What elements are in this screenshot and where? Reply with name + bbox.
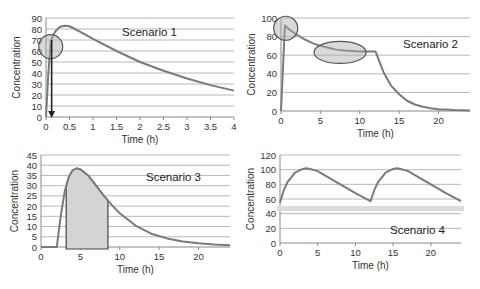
x-tick-label: 0 bbox=[277, 247, 282, 258]
y-tick-label: 20 bbox=[31, 90, 42, 101]
chart-scenario-3: 05101520253035404505101520Time (h)Concen… bbox=[9, 150, 230, 276]
chart-scenario-4: 02040608010012005101520Time (h)Concentra… bbox=[245, 150, 464, 272]
y-tick-label: 25 bbox=[26, 190, 37, 201]
x-tick-label: 5 bbox=[318, 115, 323, 126]
y-tick-label: 80 bbox=[31, 24, 42, 35]
chart-title: Scenario 1 bbox=[122, 26, 177, 38]
x-tick-label: 0 bbox=[38, 251, 43, 262]
auc-shaded-region bbox=[66, 168, 108, 249]
y-tick-label: 0 bbox=[37, 112, 42, 123]
pharmacokinetic-scenarios-figure: 010203040506070809000.511.522.533.54Time… bbox=[0, 0, 480, 289]
x-tick-label: 20 bbox=[433, 115, 444, 126]
x-axis-label: Time (h) bbox=[117, 264, 154, 275]
y-tick-label: 50 bbox=[31, 57, 42, 68]
y-axis-label: Concentration bbox=[9, 170, 20, 232]
x-tick-label: 15 bbox=[394, 115, 405, 126]
y-tick-label: 0 bbox=[32, 242, 37, 253]
y-tick-label: 100 bbox=[261, 13, 277, 24]
x-tick-label: 2.5 bbox=[157, 121, 170, 132]
x-axis-label: Time (h) bbox=[122, 134, 159, 145]
y-tick-label: 100 bbox=[260, 164, 276, 175]
y-tick-label: 30 bbox=[31, 79, 42, 90]
y-tick-label: 35 bbox=[26, 170, 37, 181]
x-tick-label: 0.5 bbox=[63, 121, 76, 132]
highlight-circle bbox=[39, 35, 63, 59]
y-axis-label: Concentration bbox=[11, 36, 22, 98]
y-tick-label: 120 bbox=[260, 150, 276, 161]
x-tick-label: 20 bbox=[426, 247, 437, 258]
y-tick-label: 10 bbox=[31, 101, 42, 112]
y-tick-label: 45 bbox=[26, 150, 37, 161]
y-axis-label: Concentration bbox=[246, 33, 257, 95]
y-tick-label: 0 bbox=[271, 238, 276, 249]
highlight-ellipse bbox=[314, 41, 366, 63]
y-tick-label: 0 bbox=[272, 106, 277, 117]
x-tick-label: 0 bbox=[43, 121, 48, 132]
chart-title: Scenario 4 bbox=[390, 224, 446, 236]
y-tick-label: 60 bbox=[266, 50, 277, 61]
x-tick-label: 3 bbox=[184, 121, 189, 132]
x-tick-label: 5 bbox=[78, 251, 83, 262]
y-tick-label: 30 bbox=[26, 180, 37, 191]
chart-scenario-2: 02040608010005101520Time (h)Concentratio… bbox=[246, 13, 470, 140]
x-tick-label: 20 bbox=[193, 251, 204, 262]
y-tick-label: 20 bbox=[265, 223, 276, 234]
x-tick-label: 3.5 bbox=[204, 121, 217, 132]
y-tick-label: 40 bbox=[265, 208, 276, 219]
chart-scenario-1: 010203040506070809000.511.522.533.54Time… bbox=[11, 13, 237, 146]
highlight-circle bbox=[274, 16, 298, 40]
x-tick-label: 10 bbox=[350, 247, 361, 258]
threshold-band bbox=[277, 206, 464, 211]
y-tick-label: 90 bbox=[31, 13, 42, 24]
x-tick-label: 15 bbox=[154, 251, 165, 262]
x-tick-label: 1.5 bbox=[110, 121, 123, 132]
concentration-curve bbox=[280, 168, 461, 202]
y-tick-label: 5 bbox=[32, 231, 37, 242]
concentration-curve bbox=[46, 26, 234, 117]
y-tick-label: 20 bbox=[26, 201, 37, 212]
y-tick-label: 40 bbox=[31, 68, 42, 79]
x-tick-label: 10 bbox=[354, 115, 365, 126]
y-axis-label: Concentration bbox=[245, 168, 256, 230]
y-tick-label: 15 bbox=[26, 211, 37, 222]
x-tick-label: 15 bbox=[388, 247, 399, 258]
x-tick-label: 2 bbox=[137, 121, 142, 132]
x-tick-label: 4 bbox=[231, 121, 236, 132]
y-tick-label: 40 bbox=[26, 160, 37, 171]
x-axis-label: Time (h) bbox=[357, 128, 394, 139]
y-tick-label: 40 bbox=[266, 68, 277, 79]
y-tick-label: 20 bbox=[266, 87, 277, 98]
x-tick-label: 10 bbox=[114, 251, 125, 262]
chart-title: Scenario 3 bbox=[146, 171, 201, 183]
x-axis-label: Time (h) bbox=[352, 260, 389, 271]
x-tick-label: 5 bbox=[315, 247, 320, 258]
x-tick-label: 0 bbox=[278, 115, 283, 126]
y-tick-label: 80 bbox=[265, 179, 276, 190]
y-tick-label: 10 bbox=[26, 221, 37, 232]
x-tick-label: 1 bbox=[90, 121, 95, 132]
chart-title: Scenario 2 bbox=[403, 38, 458, 50]
y-tick-label: 60 bbox=[265, 194, 276, 205]
